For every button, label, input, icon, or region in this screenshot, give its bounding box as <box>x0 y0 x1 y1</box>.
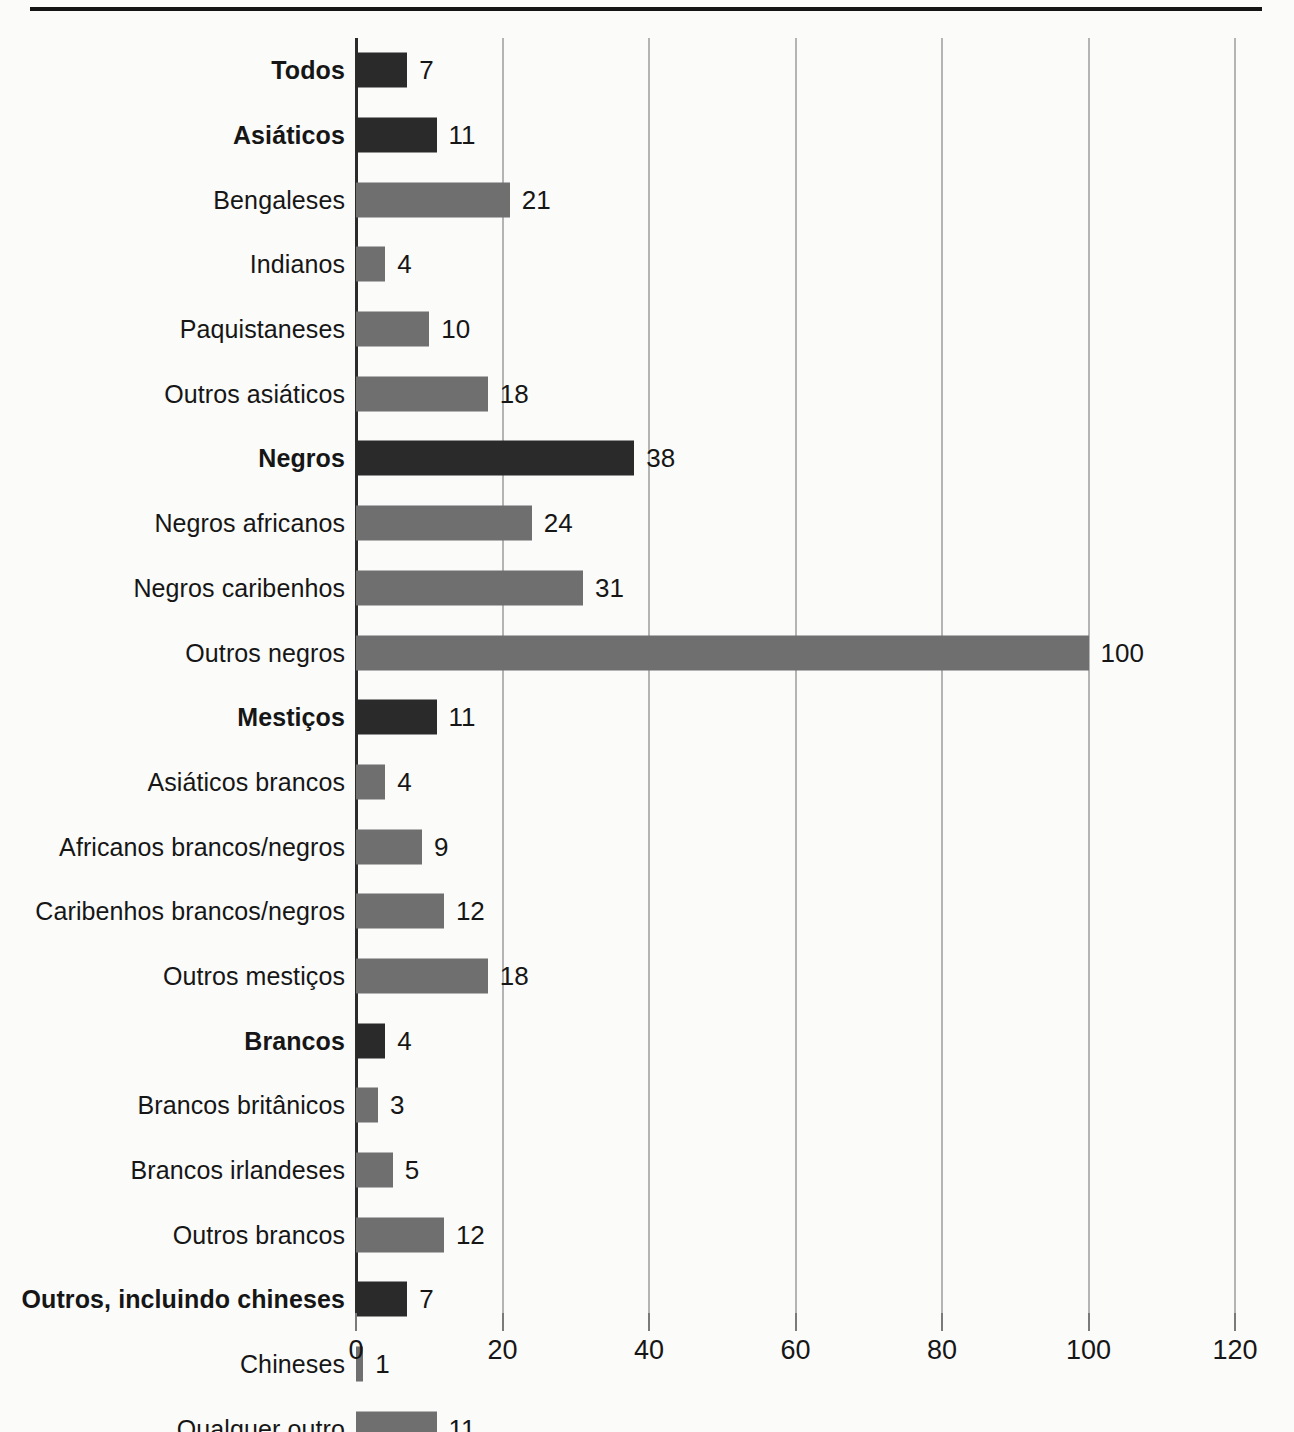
bar-value-label: 31 <box>595 572 624 603</box>
bar-row-label: Africanos brancos/negros <box>59 832 345 861</box>
bar-value-label: 21 <box>522 184 551 215</box>
x-tick-mark-60 <box>795 1313 797 1331</box>
x-tick-label: 80 <box>927 1335 957 1366</box>
bar-value-label: 11 <box>449 120 476 151</box>
bar-row-label: Todos <box>271 56 345 85</box>
x-tick-label: 100 <box>1066 1335 1111 1366</box>
bar-row: Paquistaneses10 <box>0 297 1294 362</box>
bar-row-label: Indianos <box>250 250 345 279</box>
bar <box>356 247 385 282</box>
bar-row: Negros africanos24 <box>0 491 1294 556</box>
bar-row-label: Negros caribenhos <box>133 573 345 602</box>
bar <box>356 635 1089 670</box>
bar-value-label: 12 <box>456 1219 485 1250</box>
bar-row-label: Brancos irlandeses <box>131 1156 345 1185</box>
bar-row-label: Caribenhos brancos/negros <box>35 897 345 926</box>
x-axis: 020406080100120 <box>0 1313 1294 1373</box>
bar-value-label: 7 <box>419 1284 433 1315</box>
bar-row-label: Paquistaneses <box>180 315 345 344</box>
bar-row: Negros caribenhos31 <box>0 556 1294 621</box>
x-tick-mark-0 <box>355 1313 357 1331</box>
bar-value-label: 4 <box>397 1025 411 1056</box>
bar-row-label: Asiáticos <box>233 121 345 150</box>
bar-value-label: 9 <box>434 831 448 862</box>
bar-value-label: 12 <box>456 896 485 927</box>
bar-row-label: Mestiços <box>237 703 345 732</box>
bar <box>356 570 583 605</box>
bar <box>356 1282 407 1317</box>
bar-row: Todos7 <box>0 38 1294 103</box>
bar-value-label: 24 <box>544 508 573 539</box>
bar-row: Mestiços11 <box>0 685 1294 750</box>
x-tick-label: 20 <box>487 1335 517 1366</box>
bar-chart-plot-area: Todos7Asiáticos11Bengaleses21Indianos4Pa… <box>0 38 1294 1328</box>
bar-value-label: 18 <box>500 960 529 991</box>
bar-value-label: 4 <box>397 766 411 797</box>
x-tick-mark-100 <box>1088 1313 1090 1331</box>
bar <box>356 376 488 411</box>
top-divider-rule <box>30 7 1262 11</box>
bar-row-label: Brancos britânicos <box>138 1091 345 1120</box>
bar <box>356 829 422 864</box>
bar-value-label: 100 <box>1101 637 1144 668</box>
bar-value-label: 11 <box>449 702 476 733</box>
bar <box>356 1023 385 1058</box>
bar-value-label: 10 <box>441 314 470 345</box>
bar-row: Asiáticos11 <box>0 103 1294 168</box>
bar <box>356 182 510 217</box>
x-tick-mark-20 <box>502 1313 504 1331</box>
x-tick-label: 40 <box>634 1335 664 1366</box>
bar-row: Outros asiáticos18 <box>0 361 1294 426</box>
bar <box>356 441 634 476</box>
bar <box>356 1411 437 1432</box>
x-tick-mark-80 <box>941 1313 943 1331</box>
bar <box>356 118 437 153</box>
bar-value-label: 7 <box>419 55 433 86</box>
x-tick-label: 0 <box>348 1335 363 1366</box>
bar-row: Outros brancos12 <box>0 1202 1294 1267</box>
bar-row-label: Asiáticos brancos <box>147 767 345 796</box>
bar-row: Brancos4 <box>0 1008 1294 1073</box>
bar-row: Bengaleses21 <box>0 167 1294 232</box>
x-tick-mark-40 <box>648 1313 650 1331</box>
bar-value-label: 38 <box>646 443 675 474</box>
x-tick-mark-120 <box>1234 1313 1236 1331</box>
bar <box>356 764 385 799</box>
bar <box>356 1088 378 1123</box>
bar <box>356 894 444 929</box>
bar-row: Brancos britânicos3 <box>0 1073 1294 1138</box>
bar <box>356 700 437 735</box>
bar-row: Negros38 <box>0 426 1294 491</box>
bar-row-label: Outros mestiços <box>163 961 345 990</box>
bar <box>356 1153 393 1188</box>
bar-row: Africanos brancos/negros9 <box>0 814 1294 879</box>
bar-row-label: Outros, incluindo chineses <box>22 1285 346 1314</box>
bar-row-label: Negros africanos <box>154 509 345 538</box>
bar-rows: Todos7Asiáticos11Bengaleses21Indianos4Pa… <box>0 38 1294 1432</box>
bar-value-label: 11 <box>449 1413 476 1432</box>
bar-value-label: 4 <box>397 249 411 280</box>
bar-value-label: 5 <box>405 1155 419 1186</box>
x-tick-label: 120 <box>1212 1335 1257 1366</box>
bar-row-label: Brancos <box>244 1026 345 1055</box>
bar <box>356 53 407 88</box>
bar-row: Brancos irlandeses5 <box>0 1138 1294 1203</box>
bar <box>356 1217 444 1252</box>
bar-row: Asiáticos brancos4 <box>0 750 1294 815</box>
bar-row: Outros negros100 <box>0 620 1294 685</box>
bar <box>356 312 429 347</box>
bar-row: Qualquer outro11 <box>0 1396 1294 1432</box>
bar-row-label: Bengaleses <box>213 185 345 214</box>
bar-row: Outros mestiços18 <box>0 944 1294 1009</box>
bar-value-label: 3 <box>390 1090 404 1121</box>
bar-row-label: Qualquer outro <box>177 1414 345 1432</box>
chart-page: Todos7Asiáticos11Bengaleses21Indianos4Pa… <box>0 0 1294 1432</box>
bar <box>356 506 532 541</box>
x-tick-label: 60 <box>780 1335 810 1366</box>
bar-row-label: Outros negros <box>185 638 345 667</box>
bar-row: Caribenhos brancos/negros12 <box>0 879 1294 944</box>
bar <box>356 958 488 993</box>
bar-row-label: Outros asiáticos <box>164 379 345 408</box>
bar-row-label: Outros brancos <box>173 1220 345 1249</box>
bar-row: Indianos4 <box>0 232 1294 297</box>
